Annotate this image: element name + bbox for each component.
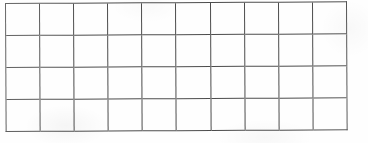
grid-cell[interactable] <box>40 3 74 35</box>
grid-cell[interactable] <box>74 67 108 99</box>
grid-cell[interactable] <box>40 99 74 131</box>
grid-cell[interactable] <box>6 3 40 35</box>
grid-cell[interactable] <box>279 98 313 130</box>
grid-cell[interactable] <box>6 99 40 131</box>
grid-cell[interactable] <box>40 67 74 99</box>
grid-cell[interactable] <box>142 35 176 67</box>
grid-body <box>6 2 348 132</box>
grid-cell[interactable] <box>313 98 347 130</box>
grid-cell[interactable] <box>108 67 142 99</box>
grid-cell[interactable] <box>244 2 278 34</box>
grid-cell[interactable] <box>74 99 108 131</box>
grid-row <box>6 2 347 36</box>
grid-cell[interactable] <box>211 98 245 130</box>
grid-cell[interactable] <box>244 66 278 98</box>
grid-cell[interactable] <box>142 99 176 131</box>
grid-cell[interactable] <box>278 34 312 66</box>
grid-cell[interactable] <box>244 34 278 66</box>
grid-cell[interactable] <box>6 67 40 99</box>
grid-cell[interactable] <box>312 2 346 34</box>
blank-grid-table[interactable] <box>5 1 348 132</box>
grid-cell[interactable] <box>210 2 244 34</box>
grid-cell[interactable] <box>74 3 108 35</box>
grid-cell[interactable] <box>278 2 312 34</box>
grid-cell[interactable] <box>210 66 244 98</box>
grid-cell[interactable] <box>176 98 210 130</box>
grid-cell[interactable] <box>142 3 176 35</box>
grid-cell[interactable] <box>312 34 346 66</box>
grid-cell[interactable] <box>108 99 142 131</box>
grid-cell[interactable] <box>210 34 244 66</box>
grid-cell[interactable] <box>279 66 313 98</box>
grid-row <box>6 98 347 132</box>
grid-cell[interactable] <box>176 34 210 66</box>
grid-row <box>6 66 347 100</box>
grid-cell[interactable] <box>40 35 74 67</box>
grid-cell[interactable] <box>313 66 347 98</box>
grid-row <box>6 34 347 68</box>
grid-cell[interactable] <box>108 35 142 67</box>
grid-cell[interactable] <box>74 35 108 67</box>
grid-cell[interactable] <box>142 67 176 99</box>
grid-cell[interactable] <box>108 3 142 35</box>
grid-cell[interactable] <box>245 98 279 130</box>
grid-cell[interactable] <box>176 2 210 34</box>
grid-cell[interactable] <box>176 66 210 98</box>
scanned-page <box>0 0 368 143</box>
grid-cell[interactable] <box>6 35 40 67</box>
